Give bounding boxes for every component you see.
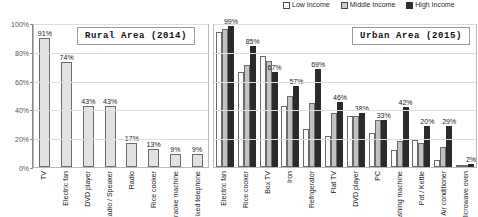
bar[interactable]: 13% [148,149,159,167]
x-axis-tick-label: TV [40,171,49,180]
bar-value-label: 9% [192,146,202,154]
legend-label-high-income: High Income [415,1,454,9]
x-axis-tick-label: Pot / Kettle [418,171,427,205]
bar[interactable]: 99% [228,26,234,167]
bar[interactable]: 2% [468,164,474,167]
bar[interactable]: 20% [424,126,430,167]
bar-group[interactable]: 85% [236,25,258,167]
legend-swatch-low-income [283,2,290,9]
bar-group[interactable]: 2% [454,25,476,167]
bar-group[interactable]: 9% [165,25,187,167]
bar[interactable]: 9% [192,154,203,167]
x-axis-tick-label: Iron [286,171,295,183]
bar-group[interactable]: 29% [432,25,454,167]
y-axis-tick-label: 60% [15,78,29,85]
bar-group[interactable]: 43% [78,25,100,167]
x-axis-tick-label: DVD player [84,171,93,207]
y-axis-tick-label: 80% [15,49,29,56]
y-axis-tick-label: 40% [15,107,29,114]
bar[interactable]: 29% [446,126,452,167]
x-axis-tick: Flat TV [323,170,345,217]
x-axis-tick-label: Rice cooker [150,171,159,208]
bar-value-label: 9% [170,146,180,154]
x-axis-tick: Microwave oven [455,170,477,217]
urban-x-axis-labels: Electric fanRice cookerBox TVIronRefrige… [213,170,477,217]
bar-value-label: 43% [103,98,117,106]
bar-group[interactable]: 13% [143,25,165,167]
x-axis-tick-label: Refrigerator [308,171,317,208]
gridline [34,82,208,83]
bar[interactable]: 69% [315,69,321,167]
bar-group[interactable]: 74% [56,25,78,167]
x-axis-tick: Radio / Speaker [99,170,121,217]
urban-panel-title: Urban Area (2015) [352,27,470,45]
bar-group[interactable]: 46% [323,25,345,167]
bar-group[interactable]: 20% [410,25,432,167]
x-axis-tick-label: Radio / Speaker [106,171,115,217]
y-axis: 0%20%40%60%80%100% [0,24,33,168]
legend-swatch-high-income [406,2,413,9]
gridline [214,110,476,111]
x-axis-tick-label: DVD player [352,171,361,207]
bar[interactable]: 67% [272,72,278,167]
bar[interactable]: 74% [61,62,72,167]
x-axis-tick-label: Air conditioner [440,171,449,216]
x-axis-tick-label: Box TV [264,171,273,194]
bar-group[interactable]: 57% [279,25,301,167]
bar[interactable]: 43% [105,106,116,167]
bar[interactable]: 9% [170,154,181,167]
rural-plot-area: 91%74%43%43%17%13%9%9% [33,24,209,168]
x-axis-tick: Electric fan [55,170,77,217]
x-axis-tick: DVD player [77,170,99,217]
rural-x-axis-labels: TVElectric fanDVD playerRadio / SpeakerR… [33,170,209,217]
y-axis-tick-label: 100% [11,21,29,28]
rural-panel-title: Rural Area (2014) [77,27,195,45]
x-axis-tick: Electric fan [213,170,235,217]
gridline [214,139,476,140]
gridline [214,53,476,54]
x-axis-tick-label: Washing machine [396,171,405,217]
bar-group[interactable]: 43% [99,25,121,167]
legend-item-low-income: Low Income [283,1,330,9]
x-axis-tick-label: Karaoke machine [172,171,181,217]
x-axis-tick: Iron [279,170,301,217]
legend-item-high-income: High Income [406,1,454,9]
x-axis-tick: PC [367,170,389,217]
bar[interactable]: 91% [39,38,50,167]
bar[interactable]: 42% [403,107,409,167]
gridline [214,82,476,83]
bar-group[interactable]: 17% [121,25,143,167]
bar[interactable]: 17% [126,143,137,167]
x-axis-tick-label: PC [374,171,383,181]
bar[interactable]: 57% [293,86,299,167]
gridline [34,24,208,25]
x-axis-tick-label: Fixed telephone [194,171,203,217]
urban-bars: 99%85%67%57%69%46%38%33%42%20%29%2% [214,25,476,167]
urban-plot-area: 99%85%67%57%69%46%38%33%42%20%29%2% [213,24,477,168]
legend-label-low-income: Low Income [292,1,330,9]
bar[interactable]: 33% [381,120,387,167]
bar[interactable]: 85% [250,46,256,167]
bar-group[interactable]: 38% [345,25,367,167]
x-axis-tick: DVD player [345,170,367,217]
x-axis-tick-label: Electric fan [62,171,71,206]
x-axis-tick-label: Radio [128,171,137,189]
bar-group[interactable]: 99% [214,25,236,167]
bar-group[interactable]: 42% [389,25,411,167]
x-axis-tick: Box TV [257,170,279,217]
x-axis-tick: Air conditioner [433,170,455,217]
x-axis-tick-label: Rice cooker [242,171,251,208]
bar[interactable]: 46% [337,102,343,167]
bar-group[interactable]: 33% [367,25,389,167]
y-axis-tick-label: 20% [15,136,29,143]
bar-value-label: 13% [147,141,161,149]
legend-label-middle-income: Middle Income [350,1,396,9]
bar[interactable]: 43% [83,106,94,167]
bar-group[interactable]: 69% [301,25,323,167]
bar-group[interactable]: 9% [186,25,208,167]
x-axis-tick: TV [33,170,55,217]
bar-group[interactable]: 91% [34,25,56,167]
x-axis-tick-label: Flat TV [330,171,339,193]
bar-group[interactable]: 67% [258,25,280,167]
gridline [34,110,208,111]
